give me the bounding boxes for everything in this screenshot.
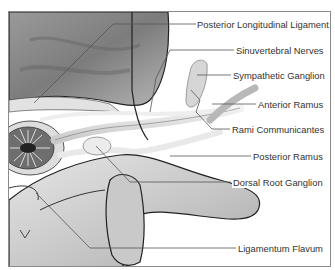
spine-illustration xyxy=(0,0,335,270)
label-sinuvertebral-nerves: Sinuvertebral Nerves xyxy=(235,45,325,56)
label-sympathetic-ganglion: Sympathetic Ganglion xyxy=(232,70,326,81)
vertebral-body xyxy=(9,12,169,105)
label-dorsal-root-ganglion: Dorsal Root Ganglion xyxy=(232,177,324,188)
label-rami-communicantes: Rami Communicantes xyxy=(231,124,325,135)
dorsal-root-ganglion-shape xyxy=(83,137,111,155)
label-posterior-ramus: Posterior Ramus xyxy=(252,151,324,162)
label-anterior-ramus: Anterior Ramus xyxy=(257,99,324,110)
sympathetic-ganglion-shape xyxy=(186,60,207,107)
facet-process xyxy=(106,175,144,266)
label-posterior-longitudinal-ligament: Posterior Longitudinal Ligament xyxy=(196,19,330,30)
label-ligamentum-flavum: Ligamentum Flavum xyxy=(237,243,324,254)
